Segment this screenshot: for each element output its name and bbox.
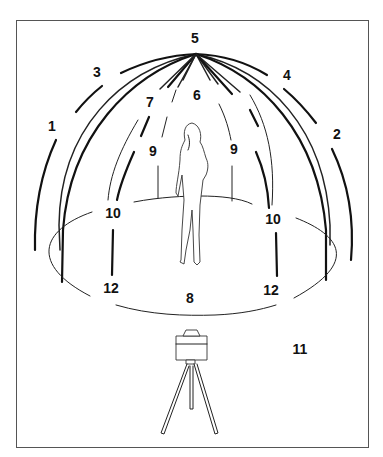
label-3: 3 — [93, 64, 101, 80]
label-12-right: 12 — [263, 282, 279, 298]
label-11: 11 — [293, 341, 308, 357]
label-1: 1 — [48, 118, 56, 134]
dome-diagram: 1 2 3 4 5 6 7 9 9 10 10 12 12 8 11 — [0, 0, 383, 457]
label-9-right: 9 — [230, 141, 238, 157]
label-10-right: 10 — [265, 211, 281, 227]
label-2: 2 — [333, 126, 341, 142]
label-9-left: 9 — [149, 143, 157, 159]
label-6: 6 — [193, 87, 201, 103]
human-figure — [176, 123, 208, 265]
label-7: 7 — [146, 94, 154, 110]
camera-icon — [176, 336, 207, 360]
label-12-left: 12 — [103, 280, 119, 296]
camera-tripod — [161, 330, 218, 434]
label-5: 5 — [191, 30, 199, 46]
label-8: 8 — [186, 290, 194, 306]
label-10-left: 10 — [105, 205, 121, 221]
label-4: 4 — [283, 67, 291, 83]
